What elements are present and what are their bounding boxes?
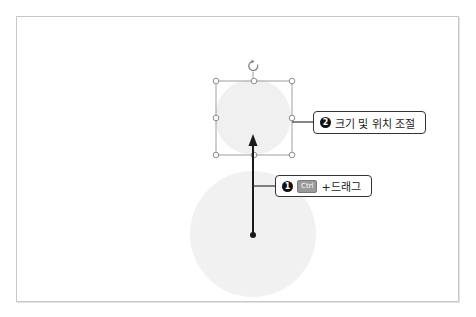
resize-handle-left[interactable] [213,115,219,121]
rotate-handle-icon[interactable] [249,60,258,71]
resize-handle-bottom-left[interactable] [213,152,219,158]
callout-2-text: 크기 및 위치 조절 [335,115,416,131]
drawing-layer [0,0,476,317]
callout-1-text: +드래그 [321,178,360,194]
resize-handle-top[interactable] [251,78,257,84]
callout-2: 2 크기 및 위치 조절 [313,111,426,134]
resize-handle-right[interactable] [289,115,295,121]
step-badge-1: 1 [282,181,293,192]
resize-handle-bottom-right[interactable] [289,152,295,158]
callout-1: 1 Ctrl +드래그 [275,175,372,197]
resize-handle-top-left[interactable] [213,78,219,84]
ctrl-key-icon: Ctrl [297,180,317,193]
drag-start-point [250,232,256,238]
resize-handle-top-right[interactable] [289,78,295,84]
step-badge-2: 2 [320,117,331,128]
